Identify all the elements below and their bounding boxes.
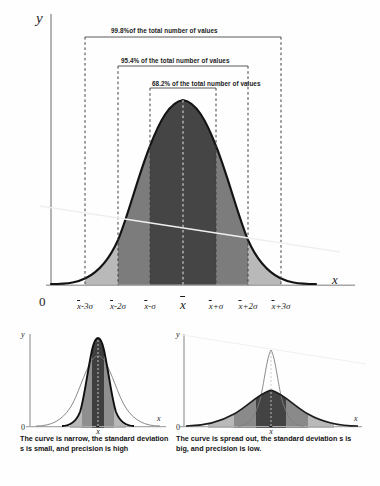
main-origin-label: 0	[39, 294, 46, 310]
spread-band-outer-right	[308, 383, 334, 428]
band-minus3-minus2	[85, 90, 118, 286]
bracket-label-95-4: 95.4% of the total number of values	[121, 57, 229, 64]
tick-label-mean: x	[180, 297, 186, 313]
xbar-glyph: x	[144, 301, 148, 311]
narrow-chart-svg	[18, 328, 173, 433]
xbar-glyph: x	[238, 301, 242, 311]
main-chart-svg	[0, 0, 380, 322]
tick-label-plus-3sigma: x+3σ	[271, 301, 290, 311]
tick-suffix: -3σ	[81, 301, 93, 311]
spread-band-middle-right	[286, 383, 308, 428]
band-plus2-plus3	[248, 90, 281, 286]
spread-x-axis-label: x	[354, 414, 358, 423]
spread-chart-svg	[176, 328, 368, 433]
tick-suffix: -2σ	[114, 301, 126, 311]
main-x-axis-label: x	[332, 272, 338, 288]
xbar-glyph: x	[209, 301, 213, 311]
spread-curve-chart: y x 0 x	[176, 328, 368, 486]
tick-label-minus-2sigma: x-2σ	[110, 301, 126, 311]
spread-band-outer-left	[208, 383, 234, 428]
spread-curve-caption: The curve is spread out, the standard de…	[176, 434, 361, 454]
band-minus2-minus1	[118, 90, 150, 286]
tick-suffix: +2σ	[242, 301, 257, 311]
tick-suffix: +σ	[213, 301, 224, 311]
figure-page: y x 0 99.8%of the total number of values…	[0, 0, 380, 486]
narrow-y-axis-label: y	[21, 330, 25, 339]
narrow-curve-chart: y x 0 x	[18, 328, 173, 486]
tick-suffix: -σ	[148, 301, 155, 311]
band-plus1-plus2	[216, 90, 248, 286]
narrow-x-axis-label: x	[157, 414, 161, 423]
narrow-origin-label: 0	[21, 423, 25, 432]
tick-label-minus-3sigma: x-3σ	[77, 301, 93, 311]
bracket-label-99-8: 99.8%of the total number of values	[111, 27, 218, 34]
spread-band-middle-left	[234, 383, 256, 428]
main-normal-curve-chart: y x 0 99.8%of the total number of values…	[0, 0, 380, 322]
tick-label-plus-1sigma: x+σ	[209, 301, 224, 311]
tick-label-minus-1sigma: x-σ	[144, 301, 155, 311]
tick-label-plus-2sigma: x+2σ	[238, 301, 257, 311]
narrow-curve-caption: The curve is narrow, the standard deviat…	[20, 434, 170, 454]
tick-suffix: +3σ	[275, 301, 290, 311]
main-y-axis-label: y	[36, 10, 43, 27]
spread-origin-label: 0	[176, 423, 180, 432]
xbar-glyph: x	[271, 301, 275, 311]
xbar-glyph: x	[77, 301, 81, 311]
xbar-glyph: x	[180, 297, 186, 312]
scan-crease	[176, 334, 366, 364]
bracket-label-68-2: 68.2% of the total number of values	[152, 80, 260, 87]
spread-y-axis-label: y	[176, 330, 180, 339]
xbar-glyph: x	[110, 301, 114, 311]
